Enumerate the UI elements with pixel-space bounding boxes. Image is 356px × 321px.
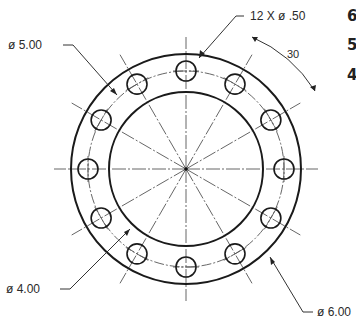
arrowhead-icon	[310, 85, 316, 91]
arrowhead-icon	[110, 88, 117, 95]
side-number: 4	[347, 66, 356, 84]
bolt-circle-leader-line	[63, 45, 117, 95]
outer-diameter-callout: ø 6.00	[270, 257, 351, 319]
side-numbering: 6 5 4	[347, 7, 356, 84]
side-number: 6	[347, 7, 356, 25]
outer-diameter-leader-line	[270, 257, 313, 312]
side-number: 5	[347, 36, 356, 54]
bolt-circle-callout: ø 5.00	[8, 38, 117, 95]
inner-diameter-label: ø 4.00	[6, 282, 40, 296]
flange-drawing: 12 X ø .50 30 ø 5.00 ø 4.00 ø 6.00 6 5 4	[0, 0, 356, 321]
outer-diameter-label: ø 6.00	[317, 305, 351, 319]
angle-label: 30	[287, 48, 299, 60]
holes-leader-line	[199, 16, 244, 58]
inner-diameter-callout: ø 4.00	[6, 229, 130, 296]
bolt-circle-label: ø 5.00	[8, 38, 42, 52]
arrowhead-icon	[124, 229, 130, 236]
arrowhead-icon	[199, 50, 205, 58]
center-point	[184, 167, 188, 171]
holes-callout-label: 12 X ø .50	[250, 9, 306, 23]
